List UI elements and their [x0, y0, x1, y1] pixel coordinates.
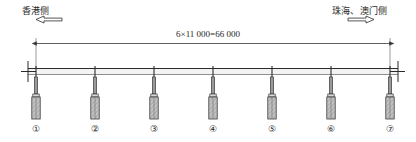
pier-number-4: ④ [202, 124, 224, 135]
pier-number-6: ⑥ [320, 124, 342, 135]
hong-kong-side-label: 香港侧 [22, 6, 50, 16]
zhuhai-macau-side-label: 珠海、澳门侧 [332, 6, 387, 16]
bridge-elevation-drawing [0, 0, 416, 142]
span-dimension-label: 6×11 000=66 000 [0, 29, 416, 40]
pier-number-3: ③ [143, 124, 165, 135]
pier-number-5: ⑤ [261, 124, 283, 135]
pier-number-1: ① [25, 124, 47, 135]
pier-number-2: ② [84, 124, 106, 135]
pier-number-7: ⑦ [379, 124, 401, 135]
